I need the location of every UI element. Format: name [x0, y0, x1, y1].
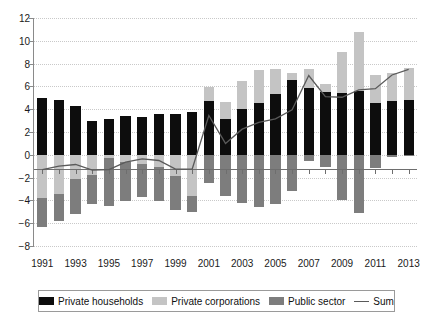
- x-axis-tick-label: 1997: [131, 258, 153, 269]
- x-axis-tick-label: 1993: [65, 258, 87, 269]
- y-axis-labels: 121086420−2−4−6−8: [0, 0, 30, 326]
- black-swatch-icon: [39, 297, 54, 305]
- sum-line-series: [34, 18, 417, 246]
- x-axis-tick-label: 2003: [231, 258, 253, 269]
- chart-container: 121086420−2−4−6−8 1991199319951997199920…: [0, 0, 431, 326]
- x-axis-tick-label: 2007: [298, 258, 320, 269]
- legend-label: Private households: [58, 296, 143, 307]
- x-axis-tick-label: 2005: [264, 258, 286, 269]
- gridline: [34, 246, 417, 247]
- x-axis-tick-label: 2009: [331, 258, 353, 269]
- legend-label: Sum: [373, 296, 394, 307]
- legend-label: Public sector: [288, 296, 345, 307]
- chart-legend: Private households Private corporations …: [38, 290, 395, 312]
- dark-gray-swatch-icon: [269, 297, 284, 305]
- x-axis-labels: 1991199319951997199920012003200520072009…: [0, 258, 431, 274]
- legend-item-sum: Sum: [354, 296, 394, 307]
- legend-item-private-households: Private households: [39, 296, 143, 307]
- legend-label: Private corporations: [171, 296, 260, 307]
- x-axis-tick-label: 1991: [31, 258, 53, 269]
- legend-item-private-corporations: Private corporations: [152, 296, 260, 307]
- light-gray-swatch-icon: [152, 297, 167, 305]
- x-axis-tick-label: 2013: [398, 258, 420, 269]
- legend-item-public-sector: Public sector: [269, 296, 345, 307]
- x-axis-tick-label: 2011: [365, 258, 387, 269]
- x-axis-tick-label: 2001: [198, 258, 220, 269]
- x-axis-tick-label: 1999: [164, 258, 186, 269]
- x-axis-tick-label: 1995: [98, 258, 120, 269]
- line-swatch-icon: [354, 301, 369, 302]
